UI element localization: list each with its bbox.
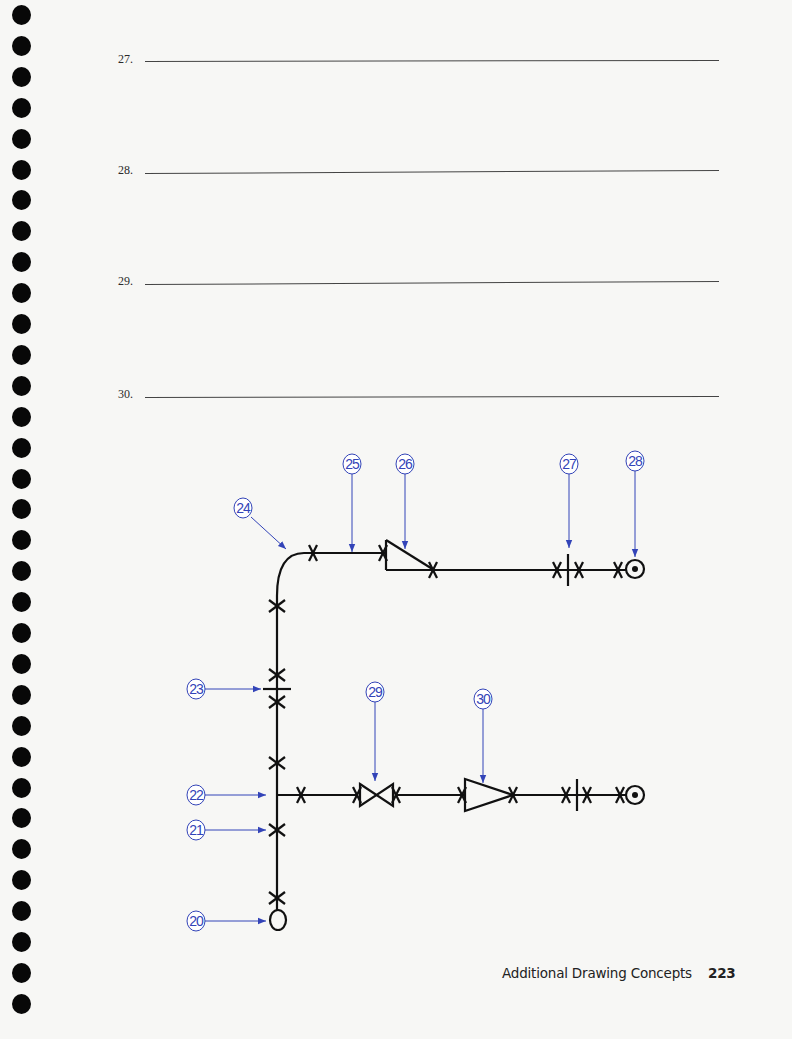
elbow-dot-icon xyxy=(632,792,638,798)
concentric-reducer-icon xyxy=(465,779,513,811)
callout-labels: 20 21 22 23 24 25 26 27 28 29 30 xyxy=(189,453,643,929)
elbow-dot-icon xyxy=(632,566,638,572)
pipe-lines xyxy=(277,540,626,911)
section-title: Additional Drawing Concepts xyxy=(502,965,692,981)
callout-label: 22 xyxy=(189,787,204,803)
piping-drawing: 20 21 22 23 24 25 26 27 28 29 30 xyxy=(0,0,792,1039)
callout-label: 26 xyxy=(398,456,413,472)
callout-leaders xyxy=(204,471,635,921)
page-footer: Additional Drawing Concepts223 xyxy=(502,965,736,981)
callout-label: 27 xyxy=(562,456,577,472)
callout-label: 24 xyxy=(236,500,251,516)
weld-joints xyxy=(269,545,624,904)
fittings xyxy=(263,554,644,930)
callout-label: 21 xyxy=(189,822,204,838)
elbow-down-icon xyxy=(270,910,286,930)
callout-label: 28 xyxy=(628,453,643,469)
callout-label: 23 xyxy=(189,681,204,697)
callout-label: 25 xyxy=(345,456,360,472)
callout-label: 30 xyxy=(476,691,491,707)
page-number: 223 xyxy=(708,965,736,981)
gate-valve-icon xyxy=(360,784,393,806)
callout-label: 29 xyxy=(368,684,383,700)
callout-label: 20 xyxy=(189,913,204,929)
callout-balloons xyxy=(187,451,644,931)
